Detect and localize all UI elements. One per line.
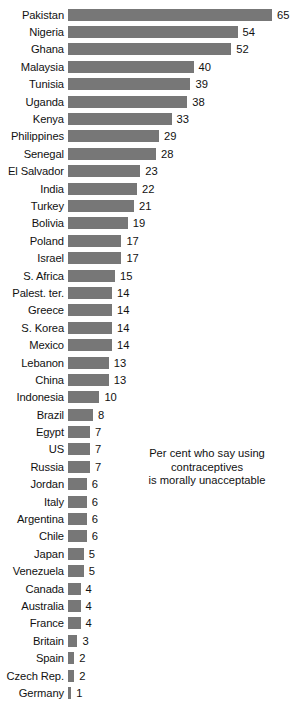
bar-row: Greece14 [0, 302, 305, 319]
bar [68, 130, 159, 142]
bar [68, 583, 81, 595]
value-label: 7 [90, 426, 101, 438]
bar-row: Argentina6 [0, 510, 305, 527]
bar-area: 10 [64, 391, 305, 403]
value-label: 23 [140, 165, 157, 177]
bar-row: France4 [0, 615, 305, 632]
category-label: Japan [0, 548, 64, 560]
bar [68, 322, 112, 334]
bar-row: Malaysia40 [0, 58, 305, 75]
bar-area: 39 [64, 78, 305, 90]
category-label: Chile [0, 530, 64, 542]
bar-row: Spain2 [0, 649, 305, 666]
bar-area: 4 [64, 617, 305, 629]
bar-area: 3 [64, 635, 305, 647]
bar [68, 304, 112, 316]
category-label: Lebanon [0, 357, 64, 369]
bar-row: Australia4 [0, 597, 305, 614]
value-label: 65 [272, 9, 289, 21]
bar-area: 14 [64, 287, 305, 299]
value-label: 13 [109, 374, 126, 386]
category-label: Nigeria [0, 26, 64, 38]
bar-area: 4 [64, 600, 305, 612]
category-label: Spain [0, 652, 64, 664]
value-label: 15 [115, 270, 132, 282]
category-label: El Salvador [0, 165, 64, 177]
bar [68, 183, 137, 195]
bar-area: 21 [64, 200, 305, 212]
value-label: 6 [87, 496, 98, 508]
bar-area: 54 [64, 26, 305, 38]
bar [68, 43, 231, 55]
value-label: 52 [231, 43, 248, 55]
category-label: Tunisia [0, 78, 64, 90]
bar-row: Germany1 [0, 684, 305, 701]
bar-row: Israel17 [0, 249, 305, 266]
category-label: Russia [0, 461, 64, 473]
bar [68, 374, 109, 386]
category-label: Czech Rep. [0, 670, 64, 682]
bar-area: 14 [64, 339, 305, 351]
category-label: Bolivia [0, 217, 64, 229]
bar [68, 235, 121, 247]
category-label: Uganda [0, 96, 64, 108]
bar [68, 478, 87, 490]
bar [68, 635, 77, 647]
value-label: 4 [81, 600, 92, 612]
category-label: Philippines [0, 130, 64, 142]
bar-row: Mexico14 [0, 336, 305, 353]
annotation-line-2: is morally unacceptable [112, 474, 302, 488]
category-label: Turkey [0, 200, 64, 212]
bar [68, 426, 90, 438]
bar [68, 496, 87, 508]
bar [68, 339, 112, 351]
bar-row: S. Korea14 [0, 319, 305, 336]
bar [68, 252, 121, 264]
bar-area: 14 [64, 322, 305, 334]
category-label: Malaysia [0, 61, 64, 73]
bar-row: Indonesia10 [0, 389, 305, 406]
bar [68, 165, 140, 177]
bar [68, 565, 84, 577]
bar-row: Chile6 [0, 528, 305, 545]
category-label: Venezuela [0, 565, 64, 577]
value-label: 21 [134, 200, 151, 212]
category-label: Mexico [0, 339, 64, 351]
bar [68, 9, 272, 21]
bar [68, 617, 81, 629]
bar [68, 148, 156, 160]
category-label: Palest. ter. [0, 287, 64, 299]
bar-row: Nigeria54 [0, 23, 305, 40]
bar-area: 6 [64, 496, 305, 508]
bar-row: Uganda38 [0, 93, 305, 110]
category-label: S. Africa [0, 270, 64, 282]
value-label: 6 [87, 513, 98, 525]
bar-area: 29 [64, 130, 305, 142]
category-label: Egypt [0, 426, 64, 438]
horizontal-bar-chart: Pakistan65Nigeria54Ghana52Malaysia40Tuni… [0, 0, 305, 712]
value-label: 14 [112, 304, 129, 316]
bar-area: 7 [64, 426, 305, 438]
bar [68, 217, 128, 229]
category-label: India [0, 183, 64, 195]
bar-area: 65 [64, 9, 305, 21]
bar-row: Palest. ter.14 [0, 284, 305, 301]
value-label: 19 [128, 217, 145, 229]
value-label: 22 [137, 183, 154, 195]
bar-area: 6 [64, 530, 305, 542]
bar [68, 113, 172, 125]
value-label: 2 [74, 652, 85, 664]
bar-area: 8 [64, 409, 305, 421]
bar-area: 22 [64, 183, 305, 195]
category-label: Brazil [0, 409, 64, 421]
bar-row: Lebanon13 [0, 354, 305, 371]
bar-area: 33 [64, 113, 305, 125]
bar-area: 19 [64, 217, 305, 229]
value-label: 38 [187, 96, 204, 108]
value-label: 3 [77, 635, 88, 647]
value-label: 7 [90, 443, 101, 455]
category-label: Senegal [0, 148, 64, 160]
value-label: 33 [172, 113, 189, 125]
bar [68, 391, 99, 403]
bar-row: Senegal28 [0, 145, 305, 162]
